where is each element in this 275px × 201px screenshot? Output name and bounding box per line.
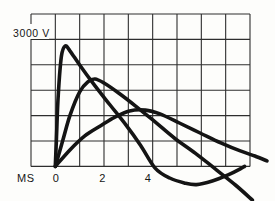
x-tick-4: 4 [145,172,152,184]
impulse-voltage-figure: 3000 V MS 0 2 4 [0,0,275,201]
y-axis-label: 3000 V [13,27,50,39]
x-tick-0: 0 [53,172,60,184]
x-tick-2: 2 [99,172,106,184]
x-axis-label: MS [17,172,35,184]
impulse-voltage-chart: 3000 V MS 0 2 4 [0,0,275,201]
